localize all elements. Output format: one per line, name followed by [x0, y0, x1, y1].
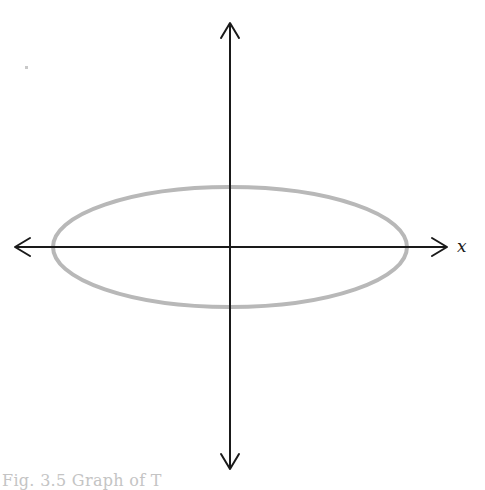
- figure-caption: Fig. 3.5 Graph of T: [2, 471, 162, 490]
- x-axis-label: x: [457, 236, 467, 256]
- scan-speck: [25, 66, 28, 69]
